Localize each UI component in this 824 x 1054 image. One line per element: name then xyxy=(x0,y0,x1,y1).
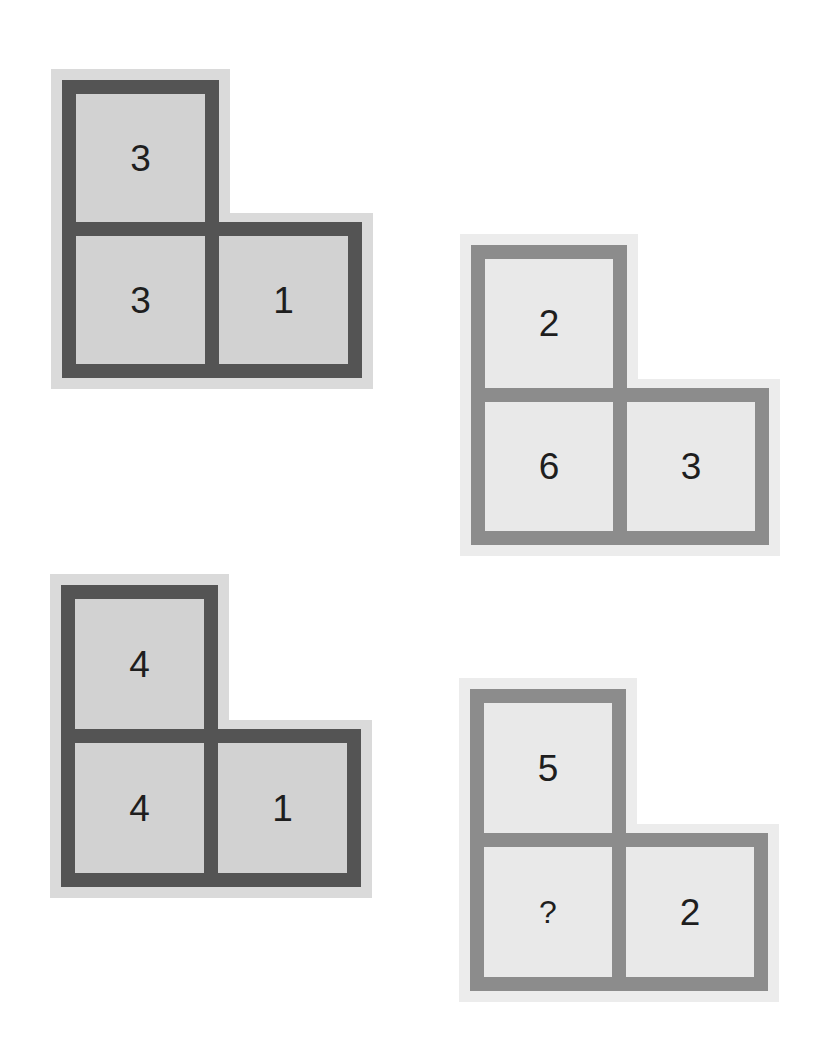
cell-top: 5 xyxy=(484,703,612,833)
cell-bottom-left: 3 xyxy=(76,236,205,364)
cell-bottom-right: 2 xyxy=(626,847,754,977)
cell-bottom-left: ? xyxy=(484,847,612,977)
cell-bottom-left: 6 xyxy=(485,402,613,531)
cell-value: 4 xyxy=(129,790,150,827)
cell-value: 6 xyxy=(539,448,560,485)
cell-top: 4 xyxy=(75,599,204,729)
cell-top: 3 xyxy=(76,94,205,222)
cell-value: 4 xyxy=(129,646,150,683)
unknown-value: ? xyxy=(539,896,557,928)
cell-value: 3 xyxy=(681,448,702,485)
cell-value: 3 xyxy=(130,282,151,319)
cell-bottom-right: 1 xyxy=(218,743,347,873)
cell-value: 5 xyxy=(538,750,559,787)
cell-value: 2 xyxy=(539,305,560,342)
cell-value: 1 xyxy=(273,282,294,319)
cell-value: 2 xyxy=(680,894,701,931)
cell-top: 2 xyxy=(485,259,613,388)
cell-value: 1 xyxy=(272,790,293,827)
cell-bottom-right: 3 xyxy=(627,402,755,531)
cell-bottom-right: 1 xyxy=(219,236,348,364)
cell-value: 3 xyxy=(130,140,151,177)
cell-bottom-left: 4 xyxy=(75,743,204,873)
